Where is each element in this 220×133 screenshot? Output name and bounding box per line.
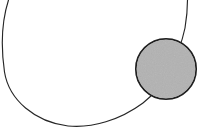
figure-svg: Necklace-like line drawing with filled g…: [0, 0, 220, 133]
figure-canvas: Necklace-like line drawing with filled g…: [0, 0, 220, 133]
gray-disc-group: [136, 39, 196, 99]
gray-disc: [136, 39, 196, 99]
